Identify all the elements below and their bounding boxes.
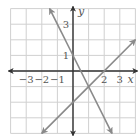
axes <box>9 7 138 136</box>
y-tick-label: 3 <box>63 19 69 30</box>
y-axis-label: y <box>77 5 85 18</box>
x-tick-label: −2 <box>34 74 49 85</box>
y-tick-label: 1 <box>63 50 69 61</box>
x-tick-label: −1 <box>50 74 65 85</box>
x-tick-label: 3 <box>117 74 123 85</box>
tick-labels: −3−2−12331xy <box>19 5 135 86</box>
plot-line-line2 <box>42 87 89 134</box>
coordinate-graph: −3−2−12331xy <box>0 0 139 140</box>
x-tick-label: −3 <box>19 74 34 85</box>
x-axis-label: x <box>128 73 135 86</box>
x-tick-label: 2 <box>101 74 107 85</box>
